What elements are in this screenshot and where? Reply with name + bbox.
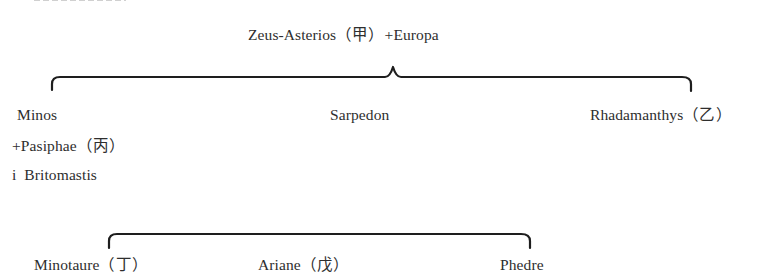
child-rhadamanthys: Rhadamanthys（乙） xyxy=(590,106,732,124)
cropped-text-fragment xyxy=(0,0,140,3)
spouse-pasiphae: +Pasiphae（丙） xyxy=(12,137,125,155)
top-brace xyxy=(52,67,691,91)
child-minos: Minos xyxy=(17,106,57,124)
root-couple-label: Zeus-Asterios（甲）+Europa xyxy=(248,26,439,44)
lower-bracket xyxy=(109,234,530,248)
grandchild-ariane: Ariane（戊） xyxy=(258,256,349,274)
cropped-text-bottom-edge xyxy=(34,0,126,1)
grandchild-phedre: Phedre xyxy=(500,256,544,274)
spouse-britomastis: i Britomastis xyxy=(12,166,97,184)
grandchild-minotaure: Minotaure（丁） xyxy=(34,256,148,274)
child-sarpedon: Sarpedon xyxy=(330,106,389,124)
